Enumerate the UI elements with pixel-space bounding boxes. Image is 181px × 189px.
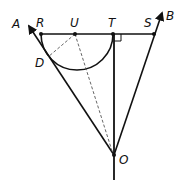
label-r: R xyxy=(36,16,44,30)
label-t: T xyxy=(108,16,117,30)
label-d: D xyxy=(35,56,44,70)
point-u xyxy=(73,32,77,36)
dashed-ud xyxy=(48,34,75,57)
label-u: U xyxy=(70,16,79,30)
label-o: O xyxy=(119,153,128,167)
label-a: A xyxy=(11,17,20,31)
right-angle-mark xyxy=(114,34,121,41)
point-o xyxy=(112,153,116,157)
dashed-uo xyxy=(75,34,113,154)
label-s: S xyxy=(144,16,152,30)
point-s xyxy=(152,32,156,36)
ray-oa xyxy=(29,26,114,155)
label-b: B xyxy=(166,9,174,23)
point-t xyxy=(111,32,115,36)
point-r xyxy=(39,32,43,36)
geometry-diagram: A R U T S B D O xyxy=(0,0,181,189)
